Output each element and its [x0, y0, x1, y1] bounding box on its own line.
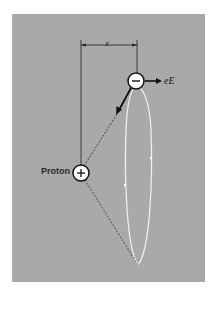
dimension-arrow-right-icon — [132, 44, 137, 47]
dashed-line-proton-electron — [84, 114, 117, 166]
distance-label: x — [105, 38, 109, 48]
dimension-arrow-left-icon — [81, 44, 86, 47]
dashed-line-proton-orbit-bottom — [85, 180, 138, 265]
proton-label: Proton — [41, 166, 70, 176]
electric-force-arrowhead-icon — [156, 78, 162, 84]
orbit-ellipse — [125, 86, 151, 265]
electric-force-label: eE — [164, 75, 175, 86]
orbit-direction-mark — [124, 184, 126, 186]
orbit-direction-mark-2 — [150, 157, 152, 159]
